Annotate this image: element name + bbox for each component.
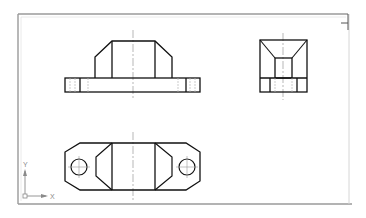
top-outline <box>65 143 200 190</box>
ucs-y-label: Y <box>23 161 28 168</box>
front-view[interactable] <box>65 30 200 100</box>
viewport-border <box>18 14 352 204</box>
front-boss-profile <box>95 41 172 78</box>
ucs-icon: Y X <box>23 161 55 200</box>
cad-drawing-canvas[interactable]: Y X <box>0 0 366 218</box>
side-view[interactable] <box>260 33 307 100</box>
ucs-x-label: X <box>50 193 55 200</box>
top-view[interactable] <box>65 132 200 200</box>
crosshair-tick-icon <box>341 14 348 30</box>
front-base-plate <box>65 78 200 92</box>
